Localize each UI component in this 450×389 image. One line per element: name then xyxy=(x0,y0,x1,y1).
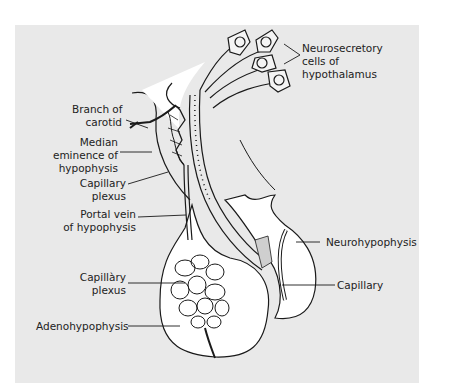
label-portal-vein: Portal vein of hypophysis xyxy=(60,208,136,234)
label-neurohypophysis: Neurohypophysis xyxy=(326,236,417,249)
label-median-eminence: Median eminence of hypophysis xyxy=(52,136,118,175)
label-adenohypophysis: Adenohypophysis xyxy=(36,320,129,333)
label-capillary: Capillary xyxy=(337,279,383,292)
label-branch-of-carotid: Branch of carotid xyxy=(72,103,122,129)
label-capillary-plexus-lower: Capillàry plexus xyxy=(72,271,126,297)
label-capillary-plexus-upper: Capillary plexus xyxy=(72,177,126,203)
label-neurosecretory-cells: Neurosecretory cells of hypothalamus xyxy=(302,42,383,81)
